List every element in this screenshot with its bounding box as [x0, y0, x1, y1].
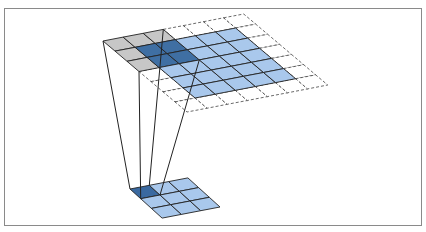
convolution-diagram	[0, 0, 426, 232]
projection-line	[139, 71, 141, 198]
projection-line	[103, 41, 130, 189]
output-grid	[130, 178, 220, 218]
input-grid	[103, 14, 328, 112]
